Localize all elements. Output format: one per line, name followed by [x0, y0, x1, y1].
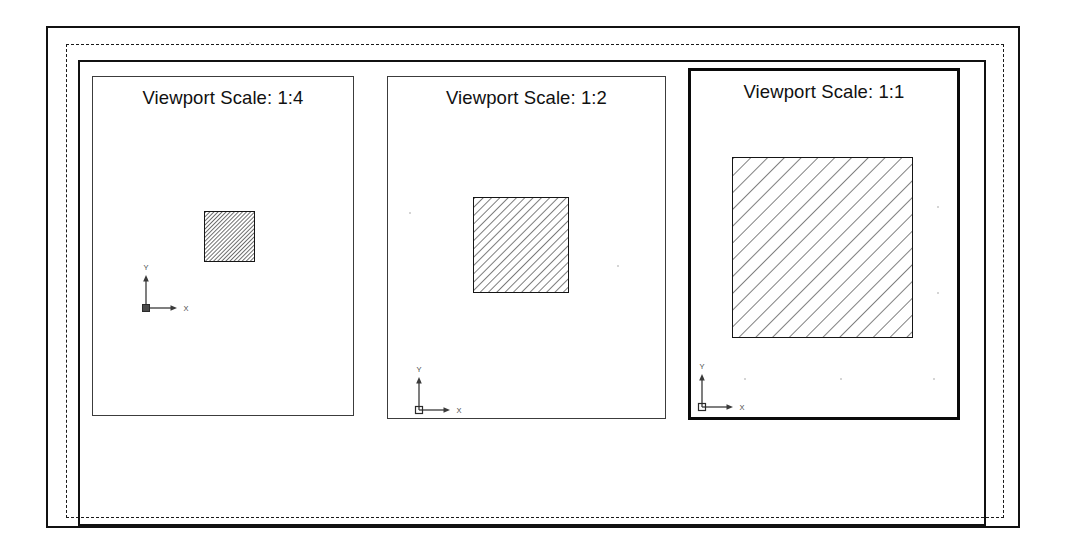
- viewport-2-scale-label: Viewport Scale: 1:2: [388, 89, 665, 108]
- hatch-fill-icon: [733, 158, 912, 337]
- svg-text:X: X: [456, 406, 461, 415]
- viewport-2-hatched-square[interactable]: [473, 197, 569, 293]
- paper-fleck: [933, 378, 935, 380]
- hatch-fill-icon: [205, 212, 254, 261]
- hatch-fill-icon: [474, 198, 568, 292]
- paper-fleck: [409, 212, 411, 214]
- paper-fleck: [249, 42, 251, 44]
- viewport-2[interactable]: Viewport Scale: 1:2 Y X: [387, 76, 666, 419]
- paper-fleck: [937, 206, 939, 208]
- svg-text:Y: Y: [699, 362, 704, 371]
- svg-text:Y: Y: [143, 263, 148, 272]
- svg-text:Y: Y: [416, 365, 421, 374]
- viewport-1[interactable]: Viewport Scale: 1:4: [92, 76, 354, 416]
- viewport-1-hatched-square[interactable]: [204, 211, 255, 262]
- paper-fleck: [617, 265, 619, 267]
- paper-fleck: [744, 378, 746, 380]
- drawing-canvas: Viewport Scale: 1:4: [0, 0, 1066, 560]
- viewport-3-scale-label: Viewport Scale: 1:1: [691, 83, 957, 102]
- viewport-1-scale-label: Viewport Scale: 1:4: [93, 89, 353, 108]
- viewport-3-hatched-square[interactable]: [732, 157, 913, 338]
- viewport-2-ucs-icon: Y X: [410, 364, 468, 416]
- paper-fleck: [840, 378, 842, 380]
- svg-text:X: X: [739, 403, 744, 412]
- viewport-3-ucs-icon: Y X: [693, 361, 751, 413]
- paper-fleck: [937, 292, 939, 294]
- svg-text:X: X: [183, 304, 188, 313]
- viewport-1-ucs-icon: Y X: [137, 262, 195, 314]
- viewport-3[interactable]: Viewport Scale: 1:1 Y X: [688, 68, 960, 420]
